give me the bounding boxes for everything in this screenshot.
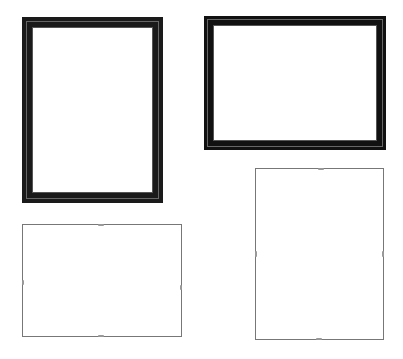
clip-top <box>98 224 104 226</box>
black-wood-frame-portrait <box>22 17 163 203</box>
clip-right <box>180 285 182 290</box>
frameless-clip-frame-landscape <box>22 224 182 337</box>
clip-top <box>318 168 324 170</box>
clip-bottom <box>98 335 104 337</box>
clip-left <box>255 251 257 257</box>
frameless-clip-frame-portrait <box>255 168 384 340</box>
black-wood-frame-landscape <box>204 16 386 150</box>
clip-bottom <box>316 338 322 340</box>
clip-left <box>22 280 24 285</box>
clip-right <box>382 251 384 257</box>
